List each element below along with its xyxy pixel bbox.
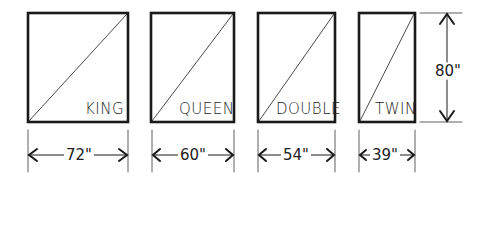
double-label: DOUBLE [276,100,341,118]
queen-label: QUEEN [179,100,234,118]
length-label: 80" [433,63,463,79]
double-width-label: 54" [281,147,311,163]
twin-width-label: 39" [370,147,400,163]
king-width-label: 72" [64,147,94,163]
twin-label: TWIN [375,100,417,118]
king-label: KING [85,100,124,118]
queen-width-label: 60" [178,147,208,163]
